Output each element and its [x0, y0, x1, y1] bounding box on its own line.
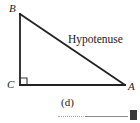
triangle-svg [0, 0, 140, 100]
corner-block-mark [130, 110, 137, 120]
vertex-label-c: C [7, 79, 14, 90]
caption-label: (d) [61, 97, 74, 108]
right-angle-marker-icon [20, 78, 27, 85]
solid-rule-divider [85, 116, 128, 117]
dotted-rule-divider [58, 116, 86, 117]
hypotenuse-line [20, 14, 125, 85]
vertex-label-b: B [9, 3, 16, 14]
geometry-figure-page: B C A Hypotenuse (d) [0, 0, 140, 123]
caption-area: (d) [0, 97, 140, 123]
hypotenuse-label: Hypotenuse [68, 34, 123, 46]
right-triangle-figure [0, 0, 140, 100]
vertex-label-a: A [128, 81, 135, 92]
